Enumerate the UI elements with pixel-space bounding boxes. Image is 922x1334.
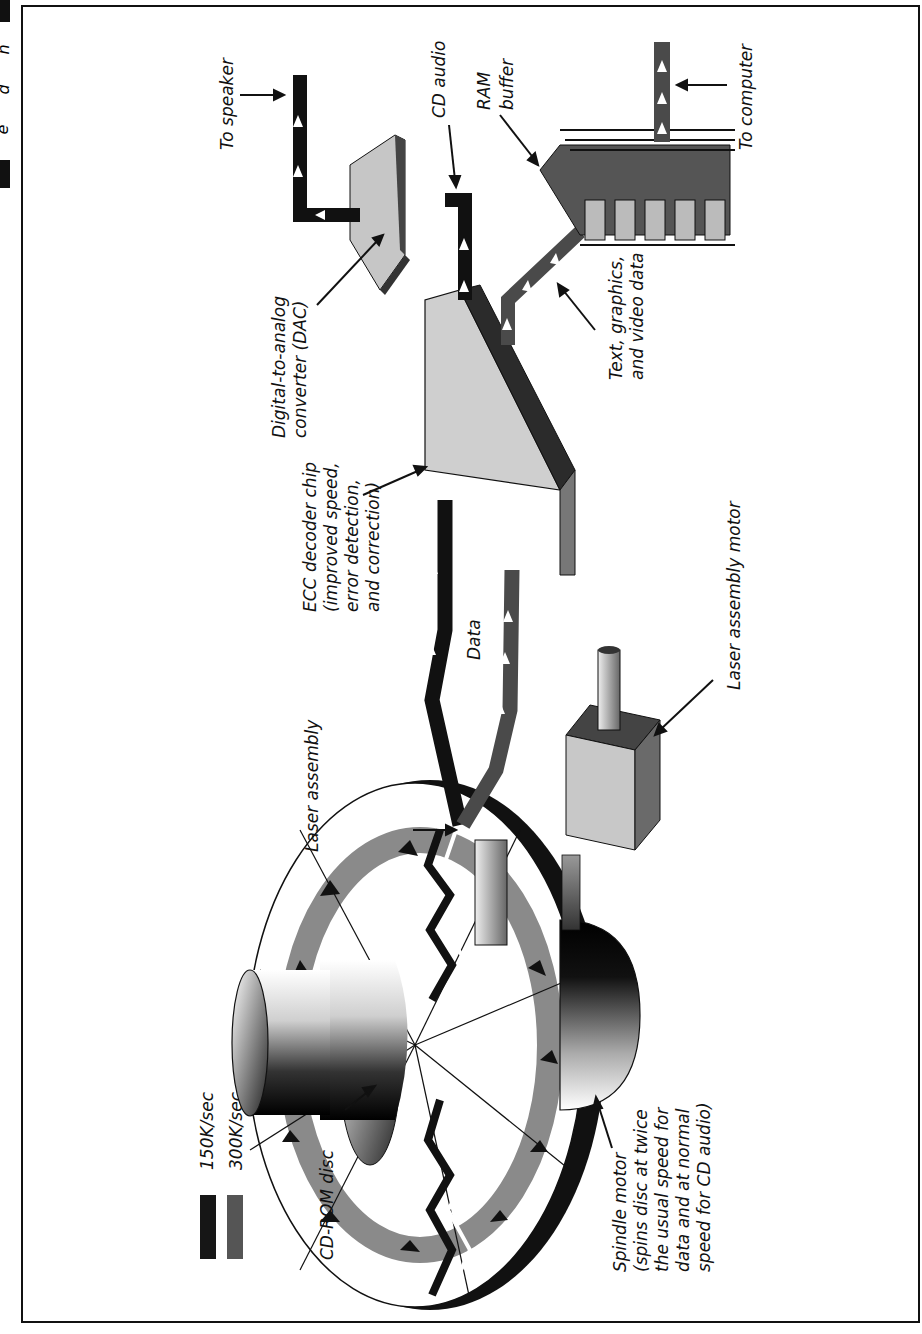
label-cd-audio: CD audio [429, 41, 449, 118]
legend: 150K/sec 300K/sec [197, 1091, 246, 1259]
ram-buffer [540, 130, 735, 245]
label-ecc-1: ECC decoder chip [300, 462, 320, 612]
label-spindle-5: speed for CD audio) [694, 1102, 714, 1272]
label-ecc-2: (improved speed, [321, 462, 341, 612]
data-path-300k [463, 570, 512, 825]
laser-arm [475, 840, 507, 945]
spindle-motor [560, 855, 640, 1110]
legend-swatch-150 [200, 1195, 216, 1259]
label-spindle-1: Spindle motor [610, 1152, 630, 1272]
label-spindle-3: the usual speed for [652, 1107, 672, 1272]
label-ram-buffer-1: RAM [474, 72, 494, 110]
legend-label-150: 150K/sec [197, 1091, 217, 1170]
label-dac-2: converter (DAC) [290, 301, 310, 438]
label-laser-assembly: Laser assembly [302, 719, 322, 852]
label-cdrom-disc: CD-ROM disc [317, 1149, 337, 1260]
label-laser-motor: Laser assembly motor [724, 500, 744, 690]
label-data: Data [464, 619, 484, 660]
label-to-computer: To computer [736, 43, 756, 150]
laser-assembly-motor [566, 646, 660, 850]
label-spindle-4: data and at normal [673, 1108, 693, 1272]
label-dac-1: Digital-to-analog [269, 296, 289, 438]
legend-swatch-300 [227, 1195, 243, 1259]
label-ecc-3: error detection, [342, 479, 362, 612]
label-ram-buffer-2: buffer [497, 58, 517, 110]
label-ecc-4: and correction) [363, 482, 383, 612]
cdrom-diagram: 150K/sec 300K/sec [0, 0, 922, 1334]
data-path-150k [432, 500, 460, 825]
label-spindle-2: (spins disc at twice [631, 1109, 651, 1272]
label-to-speaker: To speaker [217, 57, 237, 150]
label-text-graphics-2: and video data [627, 252, 647, 380]
label-text-graphics-1: Text, graphics, [606, 256, 626, 380]
